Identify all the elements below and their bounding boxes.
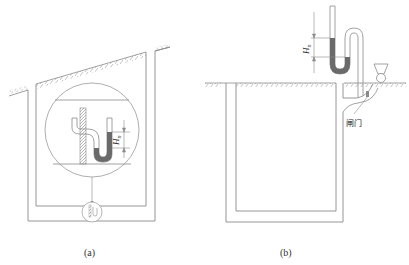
caption-b: (b) — [280, 247, 292, 259]
gate-label: 闸门 — [346, 118, 362, 128]
caption-a: (a) — [84, 247, 95, 259]
ground-surface-b — [205, 83, 406, 87]
gate-valve — [366, 64, 388, 97]
panel-b: Hn 闸门 (b) — [205, 6, 406, 259]
u-tube-manometer-b: Hn — [301, 6, 363, 74]
magnified-inset-a: Hn — [45, 83, 139, 177]
trap-location-a — [82, 202, 102, 222]
dimension-hn-b — [311, 12, 345, 73]
pit-walls-b — [226, 83, 357, 222]
wall-section — [80, 108, 86, 164]
figure: Hn (a) — [0, 0, 409, 265]
panel-a: Hn (a) — [9, 44, 170, 259]
dimension-label-b: Hn — [301, 45, 312, 56]
